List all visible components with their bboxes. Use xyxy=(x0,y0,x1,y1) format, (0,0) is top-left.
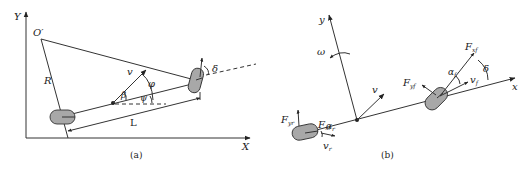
wheelbase-label: L xyxy=(130,117,137,128)
rear-slip-angle-label: αr xyxy=(326,121,336,132)
front-lateral-force-arrow xyxy=(422,85,436,95)
rear-lateral-force-arrow xyxy=(298,110,299,126)
steer-angle-label: δ xyxy=(212,63,218,74)
phi-label: φ xyxy=(148,78,155,89)
body-x-axis-label: x xyxy=(512,81,518,92)
psi-label: ψ xyxy=(140,93,148,103)
rear-velocity-arrow xyxy=(321,133,335,136)
rear-wheel-b xyxy=(291,122,319,141)
x-axis-label: X xyxy=(241,141,250,152)
y-axis-label: Y xyxy=(14,11,22,22)
front-lateral-force-label: Fyf xyxy=(402,77,417,90)
rear-wheel xyxy=(50,110,75,124)
velocity-label-b: v xyxy=(372,84,378,95)
panel-a-kinematic-model: Y X O′ R δ v β xyxy=(14,11,256,160)
steer-angle-arc xyxy=(204,66,209,75)
front-wheel xyxy=(187,67,205,94)
velocity-label: v xyxy=(127,66,133,77)
beta-label: β xyxy=(120,90,126,100)
front-slip-arc xyxy=(456,76,460,84)
radius-label: R xyxy=(43,75,52,86)
front-steer-label: δ xyxy=(483,63,489,74)
front-velocity-label: vf xyxy=(470,74,480,87)
front-wheel-heading-line xyxy=(440,53,474,96)
front-radius-line xyxy=(41,39,195,80)
bicycle-model-figure: Y X O′ R δ v β xyxy=(0,0,527,175)
body-y-axis xyxy=(329,15,357,120)
yaw-rate-label: ω xyxy=(317,46,325,57)
psi-arc xyxy=(150,96,152,103)
front-long-force-label: Fxf xyxy=(464,41,479,54)
instant-center-label: O′ xyxy=(33,27,44,38)
rear-velocity-label: vr xyxy=(323,140,333,152)
panel-a-caption: (a) xyxy=(130,150,142,160)
panel-b-dynamic-model: x y ω v Fyr Fxr αr vr Fyf Fxf xyxy=(280,14,518,160)
rear-lateral-force-label: Fyr xyxy=(280,114,295,127)
body-y-axis-label: y xyxy=(318,14,325,25)
rear-slip-arc xyxy=(321,131,322,137)
vehicle-body-line xyxy=(60,82,200,117)
panel-b-caption: (b) xyxy=(381,150,394,160)
